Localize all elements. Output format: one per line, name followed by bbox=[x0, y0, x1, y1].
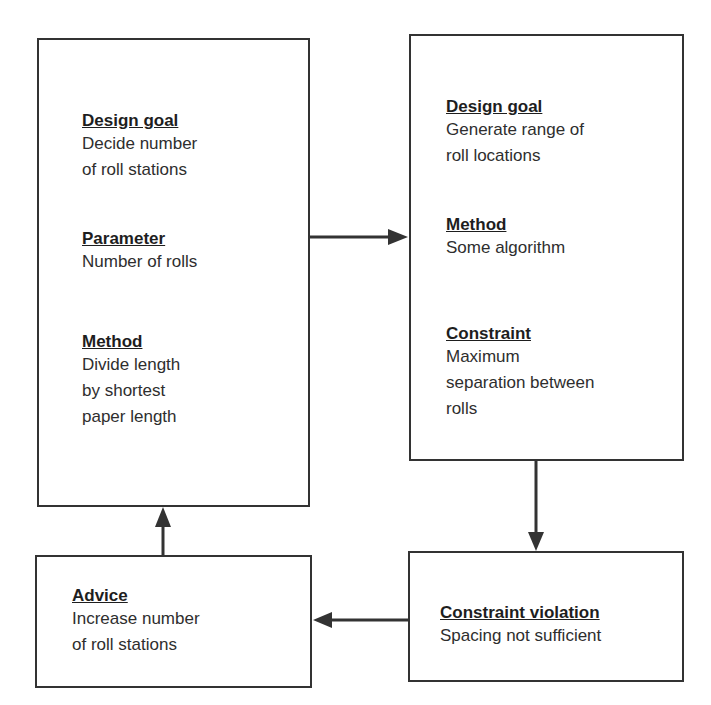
arrow-right-icon bbox=[310, 229, 408, 245]
arrow-up-icon bbox=[155, 507, 171, 555]
connector-arrows bbox=[0, 0, 711, 705]
arrow-down-icon bbox=[528, 461, 544, 551]
arrow-left-icon bbox=[313, 612, 408, 628]
